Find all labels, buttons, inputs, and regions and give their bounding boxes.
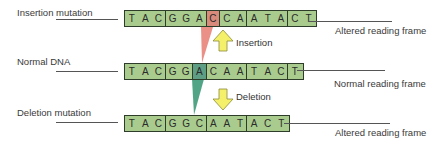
- base: A: [193, 11, 207, 26]
- insertion-frame-line: [308, 21, 392, 22]
- base: T: [125, 11, 139, 26]
- base: T: [261, 11, 275, 26]
- insertion-arrow-label: Insertion: [236, 37, 272, 48]
- normal-frame-line: [297, 70, 385, 71]
- base: T: [234, 116, 248, 131]
- base: G: [179, 64, 193, 79]
- base: A: [275, 11, 289, 26]
- base: A: [220, 64, 234, 79]
- normal-dna-label: Normal DNA: [17, 56, 70, 67]
- base: C: [288, 11, 302, 26]
- base: A: [207, 116, 221, 131]
- base: C: [207, 64, 221, 79]
- deletion-frame-line: [284, 123, 390, 124]
- base: C: [261, 116, 275, 131]
- base: A: [139, 11, 153, 26]
- base: C: [152, 11, 166, 26]
- insertion-arrow-icon: [213, 30, 233, 51]
- highlighted-base: A: [193, 64, 207, 79]
- base: T: [125, 64, 139, 79]
- deletion-dna-strip: T A C G G C A A T A C T: [124, 115, 290, 132]
- base: A: [220, 116, 234, 131]
- normal-frame-label: Normal reading frame: [334, 78, 426, 89]
- deletion-arrow-icon: [213, 89, 233, 110]
- insertion-frame-label: Altered reading frame: [335, 25, 426, 36]
- base: G: [166, 64, 180, 79]
- base: G: [166, 11, 180, 26]
- deletion-wedge: [192, 79, 204, 115]
- base: T: [125, 116, 139, 131]
- base: T: [288, 64, 302, 79]
- base: C: [193, 116, 207, 131]
- base: T: [247, 64, 261, 79]
- base: C: [275, 64, 289, 79]
- deletion-mutation-label: Deletion mutation: [17, 107, 91, 118]
- deletion-arrow-label: Deletion: [236, 91, 271, 102]
- insertion-wedge: [201, 27, 213, 63]
- base: A: [139, 116, 153, 131]
- deletion-frame-label: Altered reading frame: [335, 127, 426, 138]
- base: G: [179, 11, 193, 26]
- base: C: [152, 116, 166, 131]
- base: G: [166, 116, 180, 131]
- base: T: [302, 11, 316, 26]
- base: A: [234, 11, 248, 26]
- base: A: [261, 64, 275, 79]
- normal-label-line: [56, 71, 118, 72]
- insertion-label-line: [56, 19, 118, 20]
- base: A: [247, 11, 261, 26]
- base: A: [139, 64, 153, 79]
- base: C: [152, 64, 166, 79]
- normal-dna-strip: T A C G G A C A A T A C T: [124, 63, 304, 80]
- base: A: [234, 64, 248, 79]
- deletion-label-line: [56, 122, 118, 123]
- inserted-base: C: [207, 11, 221, 26]
- base: C: [220, 11, 234, 26]
- base: A: [247, 116, 261, 131]
- insertion-dna-strip: T A C G G A C C A A T A C T: [124, 10, 317, 27]
- insertion-mutation-label: Insertion mutation: [17, 7, 93, 18]
- base: G: [179, 116, 193, 131]
